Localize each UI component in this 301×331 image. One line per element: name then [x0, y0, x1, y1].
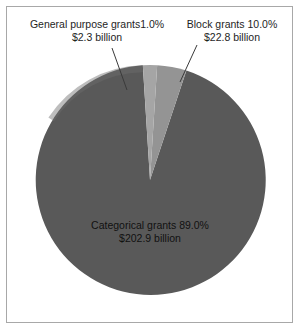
pie-label-block-grants-line2: $22.8 billion: [170, 31, 294, 44]
pie-label-general-purpose-grants-line1: General purpose grants1.0%: [16, 18, 178, 31]
pie-label-categorical-grants-line1: Categorical grants 89.0%: [55, 219, 245, 232]
pie-label-block-grants: Block grants 10.0% $22.8 billion: [170, 18, 294, 43]
pie-chart-figure: General purpose grants1.0% $2.3 billion …: [0, 0, 301, 331]
pie-label-categorical-grants: Categorical grants 89.0% $202.9 billion: [55, 219, 245, 244]
pie-label-general-purpose-grants-line2: $2.3 billion: [16, 31, 178, 44]
pie-label-general-purpose-grants: General purpose grants1.0% $2.3 billion: [16, 18, 178, 43]
pie-label-block-grants-line1: Block grants 10.0%: [170, 18, 294, 31]
pie-label-categorical-grants-line2: $202.9 billion: [55, 232, 245, 245]
pie-chart-graphic: [0, 0, 301, 331]
